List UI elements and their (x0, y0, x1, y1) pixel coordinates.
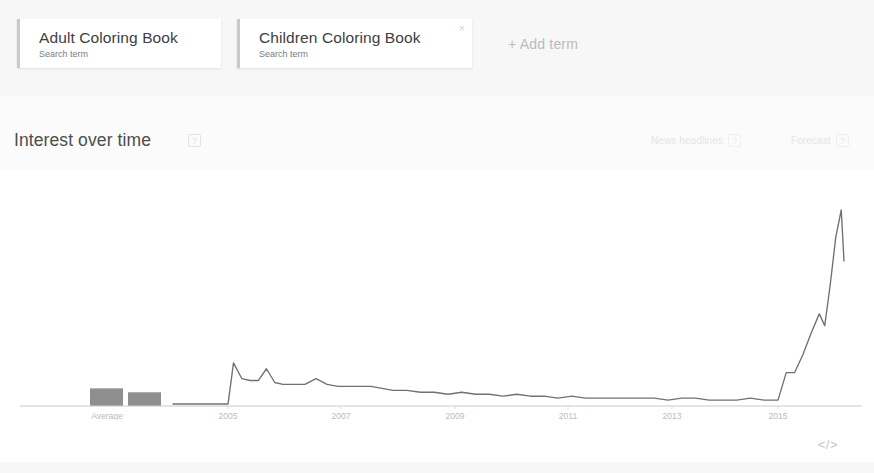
average-bar (90, 388, 123, 406)
close-icon[interactable]: × (459, 23, 465, 34)
average-bar (128, 392, 161, 406)
search-term-card-1[interactable]: × Children Coloring Book Search term (237, 19, 472, 68)
page-title: Interest over time (14, 129, 151, 151)
add-term-button[interactable]: + Add term (494, 19, 592, 68)
forecast-toggle[interactable]: Forecast ? (791, 134, 849, 147)
x-axis-tick-label: 2015 (769, 411, 788, 420)
search-term-title: Children Coloring Book (259, 28, 446, 47)
search-term-card-0[interactable]: Adult Coloring Book Search term (17, 19, 221, 68)
page-bottom-strip (0, 462, 874, 473)
news-headlines-label: News headlines (651, 134, 723, 147)
average-axis-label: Average (91, 411, 123, 420)
search-terms-bar: Adult Coloring Book Search term × Childr… (0, 0, 874, 96)
x-axis-tick-label: 2007 (332, 411, 351, 420)
chart-canvas: 200520072009201120132015 Average (0, 170, 874, 420)
x-axis-tick-label: 2013 (663, 411, 682, 420)
x-axis-tick-label: 2005 (219, 411, 238, 420)
search-term-title: Adult Coloring Book (39, 28, 195, 47)
average-bars-group (90, 388, 161, 406)
search-term-subtitle: Search term (259, 48, 446, 61)
forecast-label: Forecast (791, 134, 831, 147)
interest-over-time-chart[interactable]: 200520072009201120132015 Average (0, 170, 874, 420)
x-axis-tick-labels: 200520072009201120132015 (219, 406, 788, 420)
x-axis-tick-label: 2009 (446, 411, 465, 420)
embed-code-icon[interactable]: </> (818, 437, 838, 452)
news-headlines-toggle[interactable]: News headlines ? (651, 134, 741, 147)
search-term-subtitle: Search term (39, 48, 195, 61)
info-icon[interactable]: ? (728, 134, 741, 147)
series-line-adult-coloring-book (173, 210, 844, 404)
info-icon[interactable]: ? (836, 134, 849, 147)
info-icon[interactable]: ? (188, 134, 201, 147)
x-axis-tick-label: 2011 (559, 411, 578, 420)
